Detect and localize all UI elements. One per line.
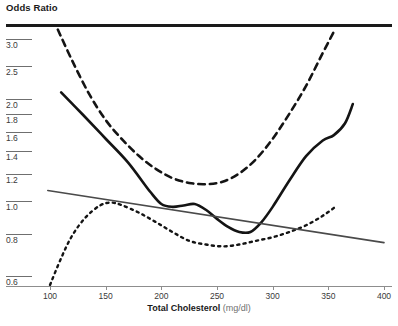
odds-ratio-chart-figure: Odds Ratio 0.60.81.01.21.41.61.82.02.53.… bbox=[0, 0, 398, 326]
dotted-curve-path bbox=[50, 203, 337, 285]
dashed-curve-path bbox=[58, 30, 335, 185]
straight-trend-line-path bbox=[48, 190, 384, 242]
plot-area bbox=[0, 0, 398, 326]
solid-curve-path bbox=[61, 92, 353, 233]
